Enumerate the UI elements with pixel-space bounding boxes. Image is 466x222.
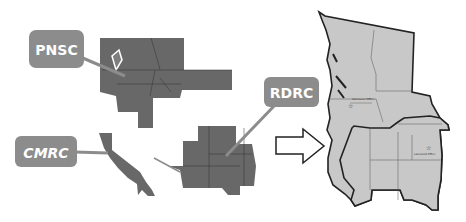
cmrc-label: CMRC: [23, 145, 69, 161]
right-arrow-icon: [276, 129, 324, 163]
pnsc-region-map: [100, 38, 232, 128]
office-label: Lakewood Office: [414, 153, 436, 156]
cmrc-callout: CMRC: [15, 136, 108, 167]
office-label: Vancouver Office: [352, 98, 374, 101]
regions-merge-diagram: PNSC CMRC RDRC ☆ Vancouver Office ☆ Lake…: [0, 0, 466, 222]
rdrc-region-map: [168, 126, 256, 195]
cmrc-region-map: [99, 133, 155, 196]
rdrc-label: RDRC: [270, 85, 313, 101]
pnsc-label: PNSC: [35, 42, 77, 58]
star-icon: ☆: [426, 144, 431, 151]
merged-region-map: [319, 12, 449, 210]
